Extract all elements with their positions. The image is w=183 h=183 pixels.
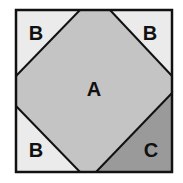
label-a: A [87,78,101,100]
label-c: C [144,139,158,161]
label-b-top-right: B [143,22,157,44]
label-b-top-left: B [29,22,43,44]
tiling-diagram: B B B A C [0,0,183,183]
label-b-bottom-left: B [29,139,43,161]
